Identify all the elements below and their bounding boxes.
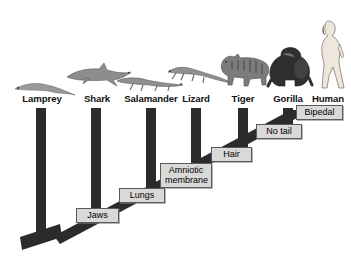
taxon-label-shark: Shark	[84, 93, 110, 104]
taxon-label-lamprey: Lamprey	[22, 93, 61, 104]
taxon-label-gorilla: Gorilla	[273, 93, 303, 104]
trait-box-no-tail: No tail	[256, 124, 302, 139]
trait-box-hair: Hair	[211, 147, 252, 162]
trait-box-lungs: Lungs	[119, 188, 165, 203]
taxon-label-human: Human	[312, 93, 344, 104]
branch-tip-shark	[91, 108, 101, 212]
trait-box-jaws: Jaws	[76, 208, 119, 223]
taxon-label-salamander: Salamander	[124, 93, 177, 104]
cladogram-figure: Lamprey Shark Salamander Lizard Tiger Go…	[0, 0, 351, 264]
branch-tip-lizard	[191, 108, 201, 171]
trait-box-amniotic-membrane-line2: membrane	[165, 175, 207, 185]
branch-tip-lamprey	[36, 108, 46, 236]
trait-box-bipedal: Bipedal	[296, 105, 343, 120]
trait-box-amniotic-membrane: Amniotic membrane	[160, 163, 212, 188]
human-silhouette	[311, 18, 349, 92]
gorilla-silhouette	[265, 44, 315, 90]
taxon-label-lizard: Lizard	[182, 93, 210, 104]
branch-tip-salamander	[146, 108, 156, 190]
taxon-label-tiger: Tiger	[232, 93, 255, 104]
trait-box-amniotic-membrane-line1: Amniotic	[165, 165, 207, 175]
